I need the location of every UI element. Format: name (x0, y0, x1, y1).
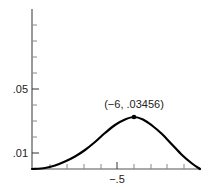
y-tick-label: .01 (13, 147, 28, 159)
x-tick-label: −.5 (109, 173, 125, 185)
y-axis: .05.01 (13, 9, 39, 169)
peak-annotation-label: (−6, .03456) (104, 98, 164, 110)
y-tick-label: .05 (13, 83, 28, 95)
peak-point-marker (132, 115, 137, 120)
annotations: (−6, .03456) (104, 98, 164, 119)
chart: .05.01 −.5 (−6, .03456) (0, 0, 216, 187)
data-curve (32, 117, 200, 169)
